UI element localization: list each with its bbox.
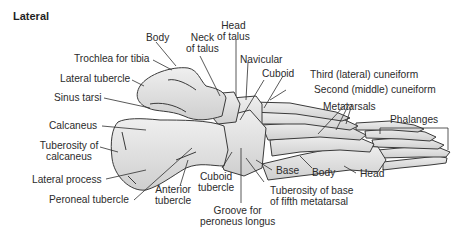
label-navicular: Navicular [240,54,282,65]
label-anterior-tubercle: Anterior tubercle [155,184,191,206]
label-cuboid: Cuboid [262,68,294,79]
label-calcaneus: Calcaneus [49,120,97,131]
label-neck-of-talus: Neck of talus [186,32,219,54]
label-tuberosity-fifth-metatarsal: Tuberosity of base of fifth metatarsal [270,185,353,207]
label-metatarsals: Metatarsals [323,101,376,112]
label-third-cuneiform: Third (lateral) cuneiform [310,69,418,80]
label-lateral-tubercle: Lateral tubercle [60,73,130,84]
label-head-metatarsal: Head [360,168,384,179]
label-sinus-tarsi: Sinus tarsi [54,92,102,103]
talus-bone [137,68,226,120]
label-lateral-process: Lateral process [32,174,102,185]
label-phalanges: Phalanges [390,114,438,125]
label-tuberosity-calcaneus: Tuberosity of calcaneus [38,140,100,162]
label-head-of-talus: Head of talus [217,20,250,42]
label-cuboid-tubercle: Cuboid tubercle [198,171,234,193]
label-groove-peroneus-longus: Groove for peroneus longus [200,205,275,227]
label-second-cuneiform: Second (middle) cuneiform [314,84,436,95]
label-peroneal-tubercle: Peroneal tubercle [49,194,129,205]
label-trochlea: Trochlea for tibia [74,53,150,64]
label-body-metatarsal: Body [312,167,335,178]
label-body-talus: Body [146,32,169,43]
label-base: Base [276,165,299,176]
